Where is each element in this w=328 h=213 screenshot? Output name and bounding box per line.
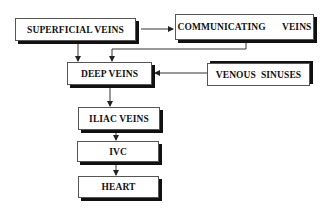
node-ivc: IVC: [77, 141, 159, 162]
node-label: HEART: [102, 182, 136, 192]
node-label: COMMUNICATING VEINS: [178, 22, 312, 32]
node-label: ILIAC VEINS: [89, 114, 149, 124]
node-label: SUPERFICIAL VEINS: [27, 25, 124, 35]
node-heart: HEART: [78, 176, 159, 198]
node-superficial-veins: SUPERFICIAL VEINS: [15, 18, 136, 41]
node-label: VENOUS SINUSES: [216, 70, 301, 80]
node-venous-sinuses: VENOUS SINUSES: [207, 63, 310, 86]
arrow-communicating-to-deep: [112, 41, 246, 61]
node-label: IVC: [109, 147, 127, 157]
node-deep-veins: DEEP VEINS: [67, 62, 152, 85]
node-iliac-veins: ILIAC VEINS: [78, 107, 160, 130]
node-label: DEEP VEINS: [81, 69, 138, 79]
node-communicating-veins: COMMUNICATING VEINS: [175, 14, 314, 40]
